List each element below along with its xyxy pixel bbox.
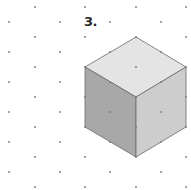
grid-dot <box>59 141 61 143</box>
grid-dot <box>135 36 137 38</box>
grid-dot <box>135 186 137 188</box>
grid-dot <box>160 141 162 143</box>
grid-dot <box>34 126 36 128</box>
grid-dot <box>34 6 36 8</box>
grid-dot <box>8 51 10 53</box>
grid-dot <box>109 111 111 113</box>
grid-dot <box>135 126 137 128</box>
grid-dot <box>84 6 86 8</box>
grid-dot <box>185 66 187 68</box>
figure-number-label: 3. <box>84 14 97 29</box>
grid-dot <box>109 51 111 53</box>
grid-dot <box>8 81 10 83</box>
grid-dot <box>135 156 137 158</box>
grid-dot <box>185 186 187 188</box>
grid-dot <box>59 171 61 173</box>
grid-dot <box>160 81 162 83</box>
grid-dot <box>8 111 10 113</box>
grid-dot <box>109 171 111 173</box>
grid-dot <box>185 96 187 98</box>
grid-dot <box>34 156 36 158</box>
grid-dot <box>59 21 61 23</box>
grid-dot <box>84 36 86 38</box>
grid-dot <box>34 36 36 38</box>
grid-dot <box>135 96 137 98</box>
grid-dot <box>84 126 86 128</box>
grid-dot <box>84 156 86 158</box>
grid-dot <box>185 36 187 38</box>
grid-dot <box>135 6 137 8</box>
grid-dot <box>8 171 10 173</box>
grid-dot <box>109 141 111 143</box>
grid-dot <box>34 66 36 68</box>
isometric-figure: 3. <box>0 0 191 190</box>
grid-dot <box>185 126 187 128</box>
grid-dot <box>84 96 86 98</box>
grid-dot <box>109 21 111 23</box>
grid-dot <box>8 21 10 23</box>
grid-dot <box>185 156 187 158</box>
grid-dot <box>160 111 162 113</box>
grid-dot <box>84 186 86 188</box>
grid-dot <box>59 81 61 83</box>
grid-dot <box>135 66 137 68</box>
grid-dot <box>185 6 187 8</box>
grid-dot <box>34 186 36 188</box>
grid-dot <box>59 51 61 53</box>
grid-dot <box>8 141 10 143</box>
grid-dot <box>160 171 162 173</box>
grid-dot <box>160 51 162 53</box>
grid-dot <box>109 81 111 83</box>
grid-dot <box>34 96 36 98</box>
grid-dot <box>160 21 162 23</box>
grid-dot <box>84 66 86 68</box>
grid-dot <box>59 111 61 113</box>
